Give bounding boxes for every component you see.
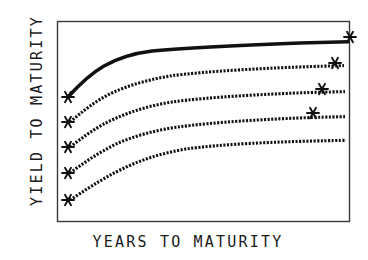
yield-curve-chart (0, 0, 368, 260)
x-axis-label: YEARS TO MATURITY (0, 235, 368, 250)
y-axis-label: YIELD TO MATURITY (30, 0, 45, 206)
chart-screenshot: YIELD TO MATURITY YEARS TO MATURITY (0, 0, 368, 260)
